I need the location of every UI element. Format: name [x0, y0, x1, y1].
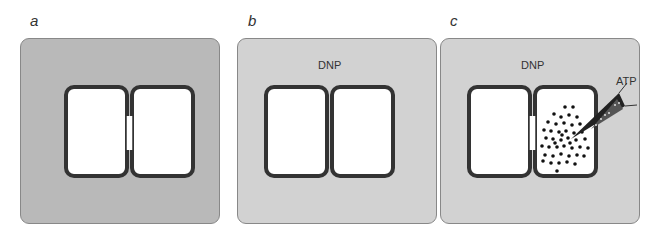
- atp-label: ATP: [616, 75, 637, 87]
- dnp-label: DNP: [318, 59, 341, 71]
- atp-injection-graphic: [441, 39, 641, 225]
- gap-junction-open: [126, 116, 133, 150]
- cell-left: [64, 85, 129, 178]
- atp-dots: [540, 105, 590, 173]
- cell-right: [130, 85, 195, 178]
- panel-b: DNP: [237, 38, 437, 224]
- panel-b-label: b: [248, 12, 256, 29]
- panel-a-label: a: [30, 12, 38, 29]
- cell-right: [330, 85, 395, 178]
- panel-c: DNP ATP: [440, 38, 640, 224]
- cell-left: [264, 85, 329, 178]
- panel-a: [20, 38, 220, 224]
- panel-c-label: c: [450, 12, 458, 29]
